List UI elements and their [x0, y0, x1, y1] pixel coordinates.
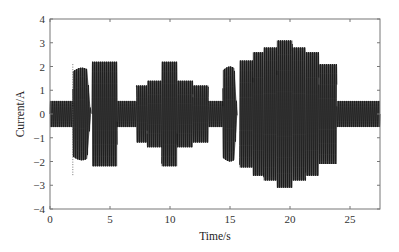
waveform-envelope	[177, 81, 193, 148]
x-tick-label: 15	[225, 213, 237, 225]
waveform-envelope	[117, 101, 136, 127]
waveform-envelope	[136, 86, 147, 143]
y-tick-label: −3	[33, 179, 45, 191]
x-tick-label: 0	[47, 213, 53, 225]
waveform-envelope	[337, 101, 380, 127]
x-tick-label: 20	[285, 213, 297, 225]
y-tick-label: 2	[40, 61, 46, 73]
waveform-envelope	[162, 62, 178, 167]
x-tick-label: 5	[107, 213, 113, 225]
y-axis-label: Current/A	[14, 90, 26, 137]
y-tick-label: 4	[40, 13, 46, 25]
waveform-envelope	[193, 86, 209, 143]
y-axis-tick-labels: −4−3−2−101234	[33, 13, 45, 215]
y-tick-label: −2	[33, 156, 45, 168]
x-axis-tick-labels: 0510152025	[47, 213, 356, 225]
waveform-envelope	[264, 48, 277, 181]
waveform-envelope	[306, 52, 319, 176]
waveform-envelope	[319, 64, 337, 164]
x-tick-label: 10	[165, 213, 177, 225]
waveform-envelope	[73, 68, 91, 161]
waveform-envelope	[147, 81, 161, 148]
x-tick-label: 25	[345, 213, 357, 225]
x-axis-label: Time/s	[199, 230, 231, 242]
y-tick-label: 1	[40, 84, 46, 96]
y-tick-label: 0	[40, 108, 46, 120]
y-tick-label: −1	[33, 132, 45, 144]
current-vs-time-chart: 0510152025 −4−3−2−101234 Time/s Current/…	[0, 0, 399, 252]
waveform-envelope	[208, 101, 222, 127]
current-waveform	[50, 40, 380, 187]
y-tick-label: 3	[40, 37, 46, 49]
waveform-envelope	[240, 61, 253, 168]
waveform-envelope	[292, 48, 305, 181]
waveform-envelope	[253, 52, 264, 176]
waveform-envelope	[223, 67, 237, 162]
waveform-envelope	[277, 40, 293, 187]
y-tick-label: −4	[33, 203, 45, 215]
waveform-envelope	[92, 62, 117, 167]
waveform-envelope	[50, 101, 73, 127]
